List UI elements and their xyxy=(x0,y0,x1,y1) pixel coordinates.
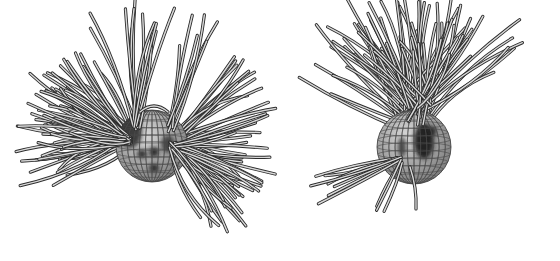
panel-right-star-field-lines xyxy=(280,0,560,261)
figure xyxy=(0,0,560,261)
dark-spot xyxy=(398,137,406,157)
star-sphere xyxy=(377,110,451,184)
panel-left-star-field-lines xyxy=(0,0,280,261)
dark-spot xyxy=(149,147,159,157)
